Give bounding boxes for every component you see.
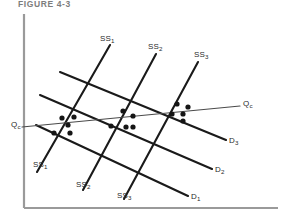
observation-point [169,111,174,116]
supply-demand-plot [0,0,284,223]
supply-curve-ss3 [124,62,198,199]
label-ss2-top: SS2 [148,42,163,51]
figure-container: FIGURE 4-3 SS1 SS2 SS [0,0,284,223]
label-ss1-top: SS1 [100,34,115,43]
observation-point [67,130,72,135]
label-ss3-bottom: SS3 [117,191,132,200]
observation-point [185,104,190,109]
observation-point [71,114,76,119]
label-ss3-top: SS3 [194,50,209,59]
label-qc-left: Qc [11,120,21,129]
label-d3: D3 [229,136,239,145]
observation-point [120,108,125,113]
label-ss2-bottom: SS2 [76,180,91,189]
observation-point [130,113,135,118]
observation-point [59,115,64,120]
label-qc-right: Qc [243,99,253,108]
label-d1: D1 [191,192,201,201]
observation-point [108,123,113,128]
observation-point [65,122,70,127]
observation-point [130,124,135,129]
demand-curve-d3 [60,72,226,140]
observation-point [180,111,185,116]
observation-point [51,130,56,135]
label-d2: D2 [215,165,225,174]
observation-point [174,101,179,106]
observation-point [180,118,185,123]
label-ss1-bottom: SS1 [33,160,48,169]
observation-point [123,124,128,129]
